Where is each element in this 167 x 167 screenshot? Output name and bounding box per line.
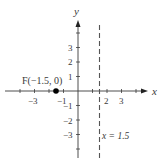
x-tick-label: −3 (28, 96, 38, 106)
x-axis: x −3 −1 2 3 (5, 85, 157, 106)
y-tick-label: 1 (68, 72, 73, 82)
y-tick-label: 3 (68, 43, 73, 53)
focus-label: F(−1.5, 0) (22, 75, 62, 87)
y-tick-label: −1 (63, 101, 73, 111)
y-tick-label: −2 (63, 116, 73, 126)
y-axis-label: y (73, 5, 79, 17)
y-axis-arrow-icon (76, 20, 81, 27)
y-axis: y 3 2 1 −1 −2 −3 (63, 5, 81, 158)
x-tick-label: 2 (104, 96, 109, 106)
directrix-label: x = 1.5 (101, 131, 130, 141)
coordinate-plane: x −3 −1 2 3 y 3 2 1 −1 −2 −3 x = 1.5 F(−… (0, 0, 167, 167)
y-tick-label: −3 (63, 130, 73, 140)
y-tick-label: 2 (68, 57, 73, 67)
focus-dot-icon (53, 88, 59, 94)
x-tick-label: 3 (119, 96, 124, 106)
x-axis-arrow-icon (141, 89, 148, 94)
directrix: x = 1.5 (100, 25, 130, 158)
x-axis-label: x (151, 85, 157, 97)
